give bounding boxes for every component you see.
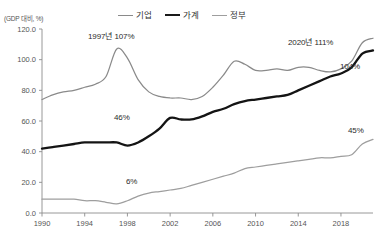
x-tick-label: 2002 <box>162 219 179 228</box>
annotation-corporate-2020: 2020년 111% <box>288 36 333 47</box>
x-tick-label: 1990 <box>34 219 51 228</box>
y-tick-label: 20.0 <box>21 178 36 187</box>
x-tick-label: 1998 <box>119 219 136 228</box>
y-tick-label: 0.0 <box>26 209 36 218</box>
y-tick-label: 60.0 <box>21 117 36 126</box>
annotation-corporate-peak-1997: 1997년 107% <box>88 30 134 41</box>
y-tick-label: 120.0 <box>17 25 36 34</box>
annotation-government-2020: 45% <box>348 126 364 135</box>
series-line-corporate <box>42 38 373 99</box>
annotation-government-1997: 6% <box>126 177 137 186</box>
x-tick-label: 2010 <box>247 219 264 228</box>
series-line-government <box>42 139 373 203</box>
y-axis: 0.020.040.060.080.0100.0120.0 <box>17 25 42 218</box>
annotation-household-1996: 46% <box>114 113 130 122</box>
x-axis: 19901994199820022006201020142018 <box>34 213 373 228</box>
x-tick-label: 2014 <box>290 219 307 228</box>
chart-container: (GDP 대비, %) 기업 가계 정부 0.020.040.060.080.0… <box>0 0 385 238</box>
y-tick-label: 100.0 <box>17 55 36 64</box>
series-line-household <box>42 50 373 148</box>
x-tick-label: 2018 <box>333 219 350 228</box>
y-tick-label: 80.0 <box>21 86 36 95</box>
x-tick-label: 1994 <box>76 219 93 228</box>
x-tick-label: 2006 <box>204 219 221 228</box>
y-tick-label: 40.0 <box>21 147 36 156</box>
annotation-household-2020: 104% <box>340 62 360 71</box>
